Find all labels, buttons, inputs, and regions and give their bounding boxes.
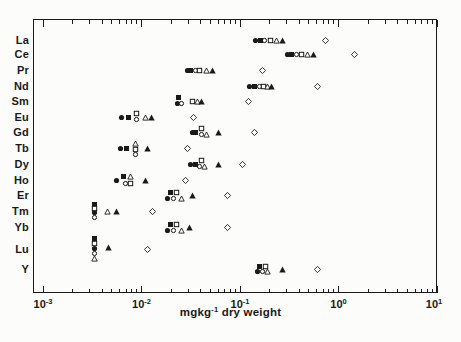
y-category-label-dy: Dy	[1, 158, 29, 171]
x-tick-bottom	[218, 289, 219, 293]
marker-open-triangle-yb	[178, 227, 185, 234]
x-tick-top	[224, 20, 225, 24]
x-tick-top	[397, 20, 398, 24]
y-category-label-pr: Pr	[1, 64, 29, 77]
x-axis-title-prefix: mgkg	[180, 306, 211, 318]
marker-open-square-eu	[133, 110, 140, 117]
marker-open-diamond-pr	[259, 67, 266, 74]
x-tick-top	[286, 20, 287, 24]
x-tick-top	[299, 20, 300, 24]
x-tick-top	[328, 20, 329, 24]
marker-filled-triangle-sm	[198, 98, 205, 105]
marker-filled-square-ho	[120, 173, 127, 180]
marker-open-square-tm	[91, 205, 98, 212]
x-tick-bottom	[131, 289, 132, 293]
marker-open-triangle-tm	[104, 208, 111, 215]
x-tick-bottom	[230, 289, 231, 293]
x-tick-bottom	[111, 289, 112, 293]
marker-open-square-ho	[127, 180, 134, 187]
x-tick-bottom	[323, 289, 324, 293]
marker-filled-triangle-y	[279, 266, 286, 273]
x-tick-bottom	[385, 289, 386, 293]
marker-open-diamond-ho	[182, 177, 189, 184]
x-tick-top	[141, 20, 142, 27]
x-tick-bottom	[210, 289, 211, 293]
y-category-label-yb: Yb	[1, 221, 29, 234]
x-tick-top	[171, 20, 172, 24]
marker-open-diamond-yb	[224, 224, 231, 231]
marker-open-triangle-y	[264, 268, 271, 275]
marker-open-diamond-dy	[239, 161, 246, 168]
x-tick-top	[269, 20, 270, 24]
y-category-label-y: Y	[1, 263, 29, 276]
marker-filled-triangle-dy	[215, 161, 222, 168]
marker-open-diamond-y	[314, 266, 321, 273]
x-tick-bottom	[119, 289, 120, 293]
marker-filled-triangle-eu	[148, 114, 155, 121]
x-tick-bottom	[224, 289, 225, 293]
y-category-label-la: La	[1, 34, 29, 47]
x-tick-top	[432, 20, 433, 24]
x-tick-top	[338, 20, 339, 27]
x-tick-bottom	[299, 289, 300, 293]
marker-open-square-tb	[132, 146, 139, 153]
marker-open-circle-sm	[178, 100, 185, 107]
x-tick-top	[72, 20, 73, 24]
marker-filled-triangle-ce	[310, 51, 317, 58]
x-tick-bottom	[397, 289, 398, 293]
marker-filled-triangle-pr	[209, 67, 216, 74]
x-tick-top	[385, 20, 386, 24]
x-tick-top	[437, 20, 438, 27]
marker-filled-triangle-gd	[215, 129, 222, 136]
x-tick-top	[407, 20, 408, 24]
marker-filled-triangle-nd	[268, 83, 275, 90]
x-tick-bottom	[308, 289, 309, 293]
x-axis-title: mgkg-1 dry weight	[0, 305, 461, 318]
x-tick-bottom	[72, 289, 73, 293]
x-tick-top	[119, 20, 120, 24]
marker-filled-square-nd	[251, 83, 258, 90]
x-tick-top	[427, 20, 428, 24]
x-tick-bottom	[200, 289, 201, 293]
x-tick-bottom	[188, 289, 189, 293]
marker-filled-square-sm	[175, 94, 182, 101]
x-tick-bottom	[421, 289, 422, 293]
x-tick-top	[136, 20, 137, 24]
y-category-label-eu: Eu	[1, 111, 29, 124]
x-tick-top	[111, 20, 112, 24]
x-tick-bottom	[136, 289, 137, 293]
marker-open-diamond-tm	[149, 208, 156, 215]
x-tick-bottom	[427, 289, 428, 293]
x-tick-bottom	[437, 286, 438, 293]
x-tick-bottom	[102, 289, 103, 293]
marker-open-diamond-sm	[245, 98, 252, 105]
marker-open-triangle-lu	[91, 255, 98, 262]
marker-open-diamond-lu	[144, 246, 151, 253]
marker-filled-triangle-tm	[113, 208, 120, 215]
marker-open-square-lu	[91, 240, 98, 247]
x-tick-bottom	[407, 289, 408, 293]
marker-open-circle-tm	[91, 214, 98, 221]
marker-open-circle-yb	[170, 227, 177, 234]
x-tick-top	[415, 20, 416, 24]
y-category-label-gd: Gd	[1, 126, 29, 139]
x-tick-top	[323, 20, 324, 24]
x-tick-top	[421, 20, 422, 24]
x-tick-bottom	[432, 289, 433, 293]
y-category-label-lu: Lu	[1, 243, 29, 256]
x-tick-top	[131, 20, 132, 24]
marker-open-diamond-tb	[184, 145, 191, 152]
x-tick-top	[102, 20, 103, 24]
marker-filled-square-la	[257, 37, 264, 44]
x-tick-top	[89, 20, 90, 24]
marker-filled-triangle-la	[279, 37, 286, 44]
x-tick-top	[188, 20, 189, 24]
marker-filled-triangle-yb	[186, 224, 193, 231]
marker-open-circle-eu	[133, 116, 140, 123]
x-tick-top	[210, 20, 211, 24]
marker-open-triangle-tb	[132, 140, 139, 147]
y-category-label-ce: Ce	[1, 48, 29, 61]
marker-filled-square-pr	[187, 67, 194, 74]
x-tick-bottom	[328, 289, 329, 293]
y-category-label-nd: Nd	[1, 80, 29, 93]
